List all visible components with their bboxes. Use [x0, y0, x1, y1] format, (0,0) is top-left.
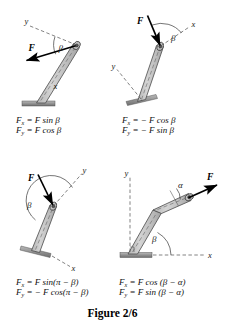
- rod: [138, 41, 165, 101]
- panel-top-left-diagram: y x F β: [22, 16, 82, 107]
- panel-bottom-left-diagram: y x F β: [20, 165, 87, 273]
- fx-expression: = F sin(π − β): [26, 277, 78, 287]
- equations-bottom-left: Fx = F sin(π − β) Fy = − F cos(π − β): [16, 278, 88, 298]
- equations-top-right: Fx = − F cos β Fy = − F sin β: [122, 116, 176, 136]
- fy-expression: = F sin (β − α): [129, 287, 184, 297]
- equations-top-left: Fx = F sin β Fy = F cos β: [16, 116, 61, 136]
- equation-fy: Fy = F sin (β − α): [119, 288, 186, 298]
- axis-x-label: x: [207, 250, 212, 260]
- force-label: F: [206, 172, 214, 182]
- angle-beta-label: β: [170, 33, 176, 43]
- force-label: F: [28, 43, 36, 53]
- equation-fy: Fy = F cos β: [16, 126, 61, 136]
- axis-y-label: y: [124, 168, 129, 178]
- fy-subscript: y: [128, 130, 131, 136]
- axis-y-label: y: [111, 61, 116, 71]
- angle-beta-label: β: [26, 200, 32, 210]
- axis-x: [52, 256, 70, 267]
- fy-expression: = − F sin β: [132, 125, 174, 135]
- angle-beta-label: β: [58, 43, 64, 53]
- angle-beta-label: β: [151, 234, 157, 244]
- fy-subscript: y: [22, 130, 25, 136]
- equation-fy: Fy = − F sin β: [122, 126, 176, 136]
- axis-y: [30, 26, 77, 45]
- equation-fy: Fy = − F cos(π − β): [16, 288, 88, 298]
- panel-top-right-diagram: x y F β: [111, 16, 196, 106]
- rod-lower-arm: [128, 210, 162, 254]
- axis-y: [117, 70, 141, 100]
- force-arrow: [38, 175, 53, 206]
- force-label: F: [27, 173, 35, 183]
- fy-subscript: y: [125, 292, 128, 298]
- axis-y-label: y: [24, 16, 29, 26]
- force-arrow: [148, 16, 161, 46]
- panel-bottom-right-diagram: y x F α β: [120, 168, 217, 260]
- equations-bottom-right: Fx = F cos (β − α) Fy = F sin (β − α): [119, 278, 186, 298]
- figure-caption: Figure 2/6: [0, 307, 225, 319]
- fx-expression: = − F cos β: [132, 115, 175, 125]
- fy-expression: = − F cos(π − β): [26, 287, 88, 297]
- force-arrow: [189, 185, 218, 198]
- force-label: F: [136, 16, 144, 26]
- angle-arc-beta: [152, 23, 181, 33]
- fx-expression: = F sin β: [26, 115, 59, 125]
- fy-expression: = F cos β: [26, 125, 61, 135]
- figure-page: y x F β: [0, 0, 225, 334]
- fy-subscript: y: [22, 292, 25, 298]
- angle-arc-beta: [158, 233, 172, 256]
- axis-y: [54, 174, 82, 206]
- fx-expression: = F cos (β − α): [129, 277, 185, 287]
- rod: [32, 201, 58, 252]
- axis-x-label: x: [191, 19, 196, 29]
- axis-y-label: y: [82, 165, 87, 175]
- axis-x-label: x: [71, 263, 76, 273]
- axis-x-label: x: [53, 81, 58, 91]
- rod-upper-arm: [153, 193, 194, 214]
- angle-alpha-label: α: [178, 180, 183, 190]
